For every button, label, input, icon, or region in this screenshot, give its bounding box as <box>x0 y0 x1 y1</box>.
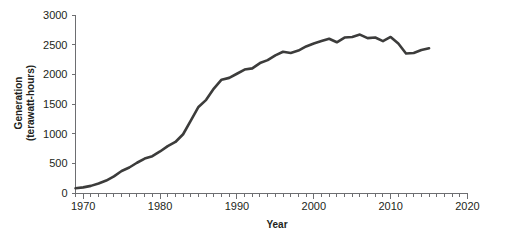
y-axis-tick-labels: 050010001500200025003000 <box>43 9 67 199</box>
data-series-line <box>76 35 430 189</box>
y-tick-label: 3000 <box>43 9 67 21</box>
y-tick-label: 2000 <box>43 68 67 80</box>
x-tick-label: 2000 <box>302 200 326 212</box>
y-tick-label: 0 <box>61 187 67 199</box>
chart-container: 050010001500200025003000 197019801990200… <box>0 0 506 243</box>
x-tick-label: 2010 <box>378 200 402 212</box>
y-axis-ticks <box>72 15 76 193</box>
x-tick-label: 1990 <box>225 200 249 212</box>
y-axis-title-line1: Generation <box>13 77 24 130</box>
x-tick-label: 1970 <box>71 200 95 212</box>
line-chart: 050010001500200025003000 197019801990200… <box>0 0 506 243</box>
x-axis-title: Year <box>266 219 287 230</box>
y-tick-label: 500 <box>49 157 67 169</box>
x-axis-tick-labels: 197019801990200020102020 <box>71 200 480 212</box>
y-tick-label: 2500 <box>43 39 67 51</box>
y-axis-title-line2: (terawatt-hours) <box>25 65 36 141</box>
x-tick-label: 1980 <box>148 200 172 212</box>
y-tick-label: 1000 <box>43 128 67 140</box>
x-tick-label: 2020 <box>455 200 479 212</box>
y-tick-label: 1500 <box>43 98 67 110</box>
